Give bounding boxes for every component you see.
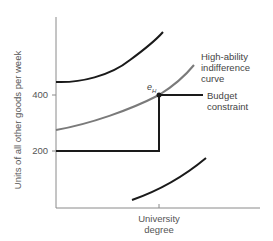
eh-label: eH	[147, 82, 156, 94]
budget-constraint-label: Budget constraint	[207, 90, 248, 112]
eh-sub: H	[152, 88, 156, 94]
chart-canvas	[0, 0, 273, 241]
bc-label-line2: constraint	[207, 101, 248, 112]
ic-label-line2: indifference	[201, 62, 250, 73]
ic-label-line1: High-ability	[201, 51, 250, 62]
indifference-curve-upper	[56, 32, 163, 82]
x-category-label: University degree	[129, 213, 189, 235]
x-category-line1: University	[129, 213, 189, 224]
budget-constraint	[56, 95, 203, 151]
high-ability-indifference-curve	[56, 65, 194, 130]
y-tick-label-400: 400	[18, 89, 48, 100]
indifference-curve-lower	[132, 158, 206, 200]
ic-label-line3: curve	[201, 73, 250, 84]
bc-label-line1: Budget	[207, 90, 248, 101]
high-ability-curve-label: High-ability indifference curve	[201, 51, 250, 84]
x-category-line2: degree	[129, 224, 189, 235]
y-tick-label-200: 200	[18, 145, 48, 156]
y-axis-label: Units of all other goods per week	[12, 51, 23, 189]
equilibrium-point-eh	[157, 93, 162, 98]
